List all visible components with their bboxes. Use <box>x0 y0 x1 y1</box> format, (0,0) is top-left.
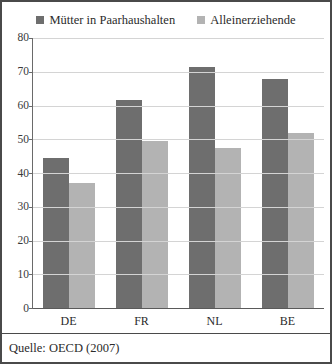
y-tickmark <box>29 207 33 208</box>
plot-area <box>32 38 324 309</box>
y-tick-label: 40 <box>18 168 30 180</box>
gridline <box>33 72 324 73</box>
y-tick-label: 20 <box>18 236 30 248</box>
source-note-text: Quelle: OECD (2007) <box>9 342 119 355</box>
y-tick-label: 60 <box>18 100 30 112</box>
legend-item-muetter-in-paarhaushalten: Mütter in Paarhaushalten <box>36 14 175 27</box>
y-tickmark <box>29 72 33 73</box>
y-tickmark <box>29 173 33 174</box>
y-tick-label: 30 <box>18 202 30 214</box>
x-tick-label-fr: FR <box>105 309 178 333</box>
gridline <box>33 173 324 174</box>
chart-legend: Mütter in Paarhaushalten Alleinerziehend… <box>2 2 330 34</box>
bar <box>43 158 69 308</box>
plot-wrapper: 01020304050607080 <box>2 34 330 309</box>
y-tick-label: 0 <box>23 303 29 315</box>
y-tick-label: 10 <box>18 269 30 281</box>
y-tickmark <box>29 106 33 107</box>
y-tick-label: 70 <box>18 66 30 78</box>
gridline <box>33 274 324 275</box>
bar <box>288 133 314 309</box>
legend-swatch-light-icon <box>197 16 205 24</box>
bar <box>116 100 142 308</box>
gridline <box>33 139 324 140</box>
gridline <box>33 207 324 208</box>
legend-label-0: Mütter in Paarhaushalten <box>49 14 175 27</box>
y-tickmark <box>29 38 33 39</box>
y-tickmark <box>29 308 33 309</box>
y-tickmark <box>29 241 33 242</box>
bar <box>189 67 215 308</box>
x-tick-label-de: DE <box>32 309 105 333</box>
x-tick-label-nl: NL <box>178 309 251 333</box>
y-tick-label: 50 <box>18 134 30 146</box>
gridline <box>33 106 324 107</box>
y-tickmark <box>29 274 33 275</box>
bar <box>215 148 241 308</box>
x-axis: DEFRNLBE <box>2 309 330 333</box>
y-tick-label: 80 <box>18 32 30 44</box>
gridline <box>33 38 324 39</box>
y-tickmark <box>29 139 33 140</box>
legend-swatch-dark-icon <box>36 16 44 24</box>
chart-figure: Mütter in Paarhaushalten Alleinerziehend… <box>0 0 332 364</box>
bar <box>142 141 168 308</box>
gridline <box>33 241 324 242</box>
legend-item-alleinerziehende: Alleinerziehende <box>197 14 295 27</box>
source-note: Quelle: OECD (2007) <box>2 333 330 362</box>
legend-label-1: Alleinerziehende <box>210 14 295 27</box>
bar <box>69 183 95 308</box>
x-tick-label-be: BE <box>251 309 324 333</box>
